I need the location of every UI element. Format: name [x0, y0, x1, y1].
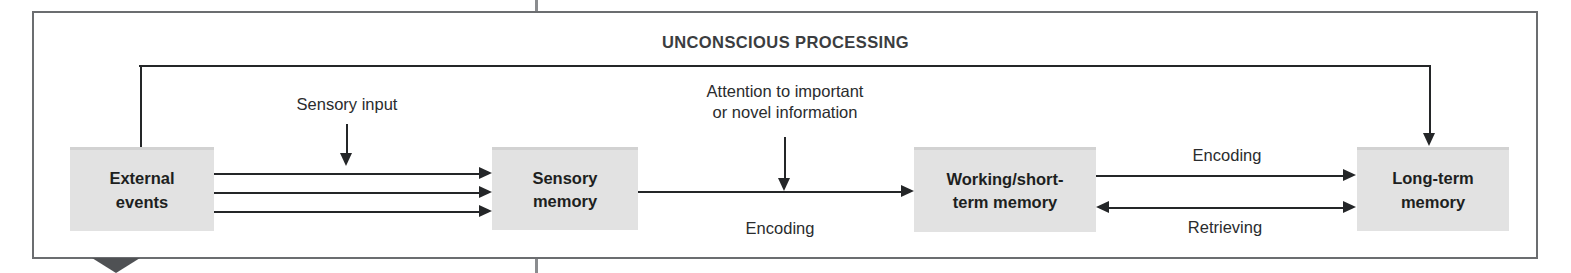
node-working-short-term-memory[interactable]: Working/short- term memory [914, 147, 1096, 232]
edge-label-retrieving: Retrieving [1125, 217, 1325, 238]
node-long-term-memory-label: Long-term memory [1392, 167, 1474, 214]
edge-label-encoding-right: Encoding [1127, 145, 1327, 166]
sensory-to-working-arrow-shaft [638, 191, 902, 193]
node-external-events[interactable]: External events [70, 147, 214, 231]
node-long-term-memory[interactable]: Long-term memory [1357, 147, 1509, 231]
external-to-sensory-arrow-2-head [479, 186, 492, 198]
external-to-sensory-arrow-3-head [479, 205, 492, 217]
external-to-sensory-arrow-3-shaft [214, 211, 480, 213]
working-to-longterm-arrow-shaft [1096, 175, 1344, 177]
edge-label-encoding-left: Encoding [680, 218, 880, 239]
longterm-to-working-arrow-shaft [1108, 207, 1344, 209]
feedback-loop-arrowhead [1423, 133, 1435, 146]
node-working-short-term-memory-label: Working/short- term memory [946, 168, 1063, 215]
attention-arrow-shaft [784, 137, 786, 180]
feedback-loop-left-segment [140, 65, 142, 149]
edge-label-sensory-input: Sensory input [247, 94, 447, 115]
node-external-events-label: External events [109, 167, 174, 214]
external-to-sensory-arrow-1-shaft [214, 173, 480, 175]
page-title: UNCONSCIOUS PROCESSING [0, 33, 1571, 52]
longterm-to-working-arrowhead-right [1343, 201, 1356, 213]
sensory-input-arrowhead [340, 153, 352, 166]
sensory-input-arrow-shaft [346, 124, 348, 155]
node-sensory-memory[interactable]: Sensory memory [492, 147, 638, 230]
attention-arrowhead [778, 178, 790, 191]
node-sensory-memory-label: Sensory memory [532, 167, 597, 214]
page-edge-notch [92, 258, 140, 273]
page-binding-tick-bottom [535, 258, 538, 273]
external-to-sensory-arrow-1-head [479, 167, 492, 179]
working-to-longterm-arrowhead [1343, 169, 1356, 181]
figure-unconscious-processing: UNCONSCIOUS PROCESSING Sensory input Att… [0, 0, 1571, 273]
edge-label-attention: Attention to important or novel informat… [670, 81, 900, 124]
external-to-sensory-arrow-2-shaft [214, 192, 480, 194]
feedback-loop-top-segment [139, 65, 1431, 67]
feedback-loop-right-segment [1429, 65, 1431, 134]
sensory-to-working-arrowhead [901, 185, 914, 197]
